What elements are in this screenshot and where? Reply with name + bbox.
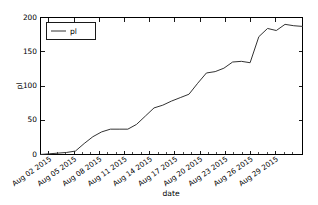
- x-axis-title: date: [162, 189, 179, 198]
- y-tick-label-150: 150: [23, 47, 37, 56]
- y-tick-label-50: 50: [28, 115, 38, 124]
- legend-label-pl: pl: [70, 27, 77, 36]
- y-tick-label-200: 200: [23, 13, 37, 22]
- line-chart-plot: 0 50 100 150 200: [0, 0, 318, 205]
- x-axis-tick-labels: Aug 02 2015 Aug 05 2015 Aug 08 2015 Aug …: [10, 154, 280, 188]
- y-tick-label-0: 0: [32, 150, 37, 159]
- chart-legend[interactable]: pl: [47, 23, 96, 40]
- y-tick-label-100: 100: [23, 81, 37, 90]
- y-axis-title: pl: [15, 83, 24, 90]
- chart-figure: 0 50 100 150 200: [0, 0, 318, 205]
- data-series-pl: [41, 24, 303, 154]
